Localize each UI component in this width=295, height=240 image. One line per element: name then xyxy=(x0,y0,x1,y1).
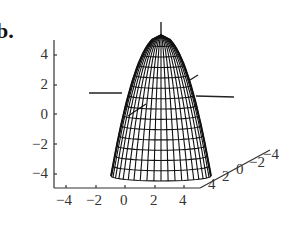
z-tick-label: 0 xyxy=(8,107,48,122)
z-tick-label: −4 xyxy=(8,166,48,181)
z-tick-label: 4 xyxy=(8,47,48,62)
y-tick-label: −4 xyxy=(263,147,279,162)
y-tick-label: 0 xyxy=(236,162,244,177)
x-tick-label: 0 xyxy=(120,193,128,208)
central-x-axis-right xyxy=(196,96,234,97)
central-y-axis-upper xyxy=(190,75,198,80)
x-tick-label: 4 xyxy=(179,193,187,208)
y-tick-label: 4 xyxy=(208,177,216,192)
x-tick-label: −4 xyxy=(56,193,72,208)
z-tick-label: −2 xyxy=(8,137,48,152)
paraboloid-surface xyxy=(111,35,211,181)
y-tick-label: 2 xyxy=(222,169,230,184)
x-tick-label: −2 xyxy=(86,193,102,208)
z-tick-label: 2 xyxy=(8,77,48,92)
x-tick-label: 2 xyxy=(150,193,158,208)
